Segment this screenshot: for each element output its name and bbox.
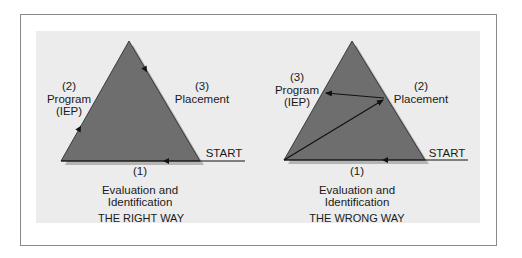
wrong-way-step1-label: (1) Evaluation and Identification THE WR… [307, 165, 407, 224]
step-label: Program [269, 84, 325, 97]
wrong-way-step2-label: (2) Placement [388, 80, 454, 105]
step-label: Program [41, 93, 97, 106]
step-number: (3) [269, 71, 325, 84]
step-number: (1) [307, 165, 407, 178]
right-way-caption: THE RIGHT WAY [98, 212, 182, 225]
step-label: Placement [388, 93, 454, 106]
step-number: (1) [98, 165, 182, 178]
right-way-step3-label: (3) Placement [168, 80, 236, 105]
step-label-line1: Evaluation and [307, 184, 407, 197]
step-label-line1: Evaluation and [98, 184, 182, 197]
step-number: (2) [388, 80, 454, 93]
wrong-way-caption: THE WRONG WAY [307, 212, 407, 225]
wrong-way-step3-label: (3) Program (IEP) [269, 71, 325, 109]
step-label: Placement [168, 93, 236, 106]
wrong-way-start-label: START [426, 147, 468, 160]
right-way-start-label: START [203, 147, 245, 160]
step-label-line2: Identification [307, 196, 407, 209]
process-triangles [0, 0, 522, 258]
step-label-line2: Identification [98, 196, 182, 209]
step-sub: (IEP) [269, 96, 325, 109]
right-way-step2-label: (2) Program (IEP) [41, 80, 97, 118]
step-number: (2) [41, 80, 97, 93]
step-number: (3) [168, 80, 236, 93]
step-sub: (IEP) [41, 105, 97, 118]
right-way-step1-label: (1) Evaluation and Identification THE RI… [98, 165, 182, 224]
